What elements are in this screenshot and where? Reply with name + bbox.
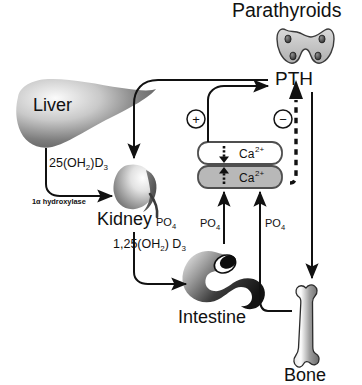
liver-label: Liver	[33, 95, 72, 115]
label-125ohd3: 1,25(OH2) D3	[113, 237, 186, 253]
ca-high-label: Ca	[239, 171, 255, 185]
ca-low-superscript: 2+	[255, 145, 264, 154]
parathyroids-label: Parathyroids	[232, 0, 342, 21]
ca-low-label: Ca	[239, 147, 255, 161]
svg-text:25(OH2)D3: 25(OH2)D3	[49, 156, 108, 172]
po4-intestine-main: PO	[200, 217, 216, 229]
label-po4-kidney: PO4	[156, 216, 176, 231]
vitd25-main: 25(OH	[49, 156, 86, 170]
ca-high-box: Ca 2+	[198, 166, 282, 188]
connector-cahigh-to-pth-dashed	[290, 100, 296, 183]
positive-sign-label: +	[192, 112, 200, 127]
vitd125-tail: ) D	[165, 237, 182, 251]
vitd25-tail: )D	[90, 156, 103, 170]
negative-sign-badge: −	[274, 110, 292, 128]
po4-kidney-main: PO	[156, 216, 172, 228]
vitd125-main: 1,25(OH	[113, 237, 160, 251]
homeostasis-diagram: Parathyroids PTH Liver Kidney Intestine …	[0, 0, 362, 385]
bone-label: Bone	[284, 365, 326, 385]
kidney-label: Kidney	[97, 209, 152, 229]
label-1alpha-hydroxylase: 1α hydroxylase	[32, 197, 86, 206]
bone-icon	[294, 285, 319, 367]
vitd25-tail-sub: 3	[103, 163, 108, 172]
label-25ohd3: 25(OH2)D3	[49, 156, 108, 172]
connector-calow-to-pth	[208, 86, 268, 142]
label-po4-bone: PO4	[265, 217, 285, 232]
parathyroid-gland-icon	[277, 29, 334, 63]
vitd125-tail-sub: 3	[181, 244, 186, 253]
intestine-icon	[182, 251, 265, 309]
ca-high-superscript: 2+	[255, 169, 264, 178]
intestine-label: Intestine	[178, 307, 246, 327]
positive-sign-badge: +	[187, 110, 205, 128]
po4-bone-sub: 4	[281, 223, 285, 232]
po4-kidney-sub: 4	[172, 222, 176, 231]
po4-bone-main: PO	[265, 217, 281, 229]
negative-sign-label: −	[279, 112, 287, 127]
po4-intestine-sub: 4	[216, 223, 220, 232]
svg-text:1,25(OH2) D3: 1,25(OH2) D3	[113, 237, 186, 253]
ca-low-box: Ca 2+	[198, 142, 282, 164]
label-po4-intestine: PO4	[200, 217, 220, 232]
